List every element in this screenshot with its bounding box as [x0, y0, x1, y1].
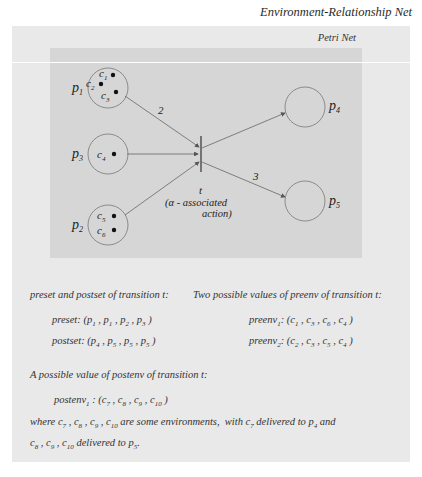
preenv1-row: preenv1: (c1 , c3 , c6 , c4 )	[249, 314, 353, 328]
svg-text:c5: c5	[97, 209, 106, 224]
svg-text:c3: c3	[101, 89, 110, 104]
place-p3	[88, 134, 128, 174]
token-c6	[112, 228, 116, 232]
postset-label: postset:	[52, 335, 85, 346]
preenv-heading: Two possible values of preenv of transit…	[193, 289, 382, 300]
svg-text:action): action)	[202, 208, 232, 220]
svg-text:p3: p3	[71, 146, 83, 163]
postenv1-row: postenv1 : (c7 , c8 , c9 , c10 )	[54, 394, 168, 408]
svg-text:c4: c4	[97, 148, 106, 163]
preset-heading: preset and postset of transition t:	[30, 289, 169, 300]
token-c4	[112, 152, 116, 156]
arc-t-p5	[202, 162, 285, 197]
arc-t-p4	[202, 113, 285, 148]
svg-text:3: 3	[252, 170, 259, 182]
svg-text:c1: c1	[99, 67, 107, 82]
token-c3	[114, 90, 118, 94]
svg-text:p4: p4	[328, 98, 340, 115]
preenv2-row: preenv2: (c2 , c3 , c5 , c4 )	[249, 335, 353, 349]
svg-text:c2: c2	[86, 77, 95, 92]
where-line-2: c8 , c9 , c10 delivered to p5.	[30, 437, 140, 451]
postenv-heading: A possible value of postenv of transitio…	[30, 369, 207, 380]
postset-row: postset: (p4 , p5 , p5 , p5 )	[52, 335, 156, 349]
token-c5	[112, 214, 116, 218]
svg-text:p1: p1	[71, 80, 83, 97]
svg-text:2: 2	[158, 104, 164, 116]
place-p4	[285, 87, 325, 127]
preset-label: preset:	[52, 314, 81, 325]
where-line-1: where c7 , c8 , c9 , c10 are some enviro…	[30, 416, 336, 430]
preset-row: preset: (p1 , p1 , p2 , p3 )	[52, 314, 152, 328]
place-p2	[88, 205, 128, 245]
svg-text:t: t	[199, 184, 203, 196]
svg-text:p5: p5	[328, 193, 340, 210]
svg-text:p2: p2	[71, 217, 83, 234]
token-c1	[111, 73, 115, 77]
token-c2	[99, 82, 103, 86]
svg-text:c6: c6	[97, 224, 106, 239]
place-p5	[285, 181, 325, 221]
